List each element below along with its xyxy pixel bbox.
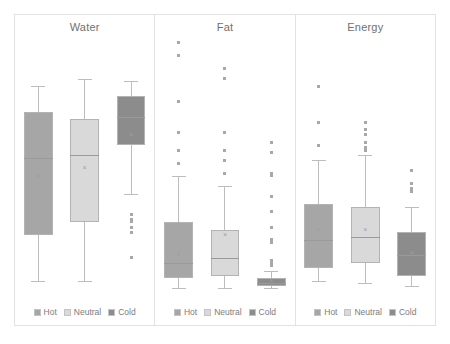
legend-item-hot[interactable]: Hot (314, 307, 337, 317)
whisker-cap-upper (264, 271, 278, 272)
panel-title: Fat (155, 21, 294, 33)
legend-item-hot[interactable]: Hot (174, 307, 197, 317)
legend-item-cold[interactable]: Cold (108, 307, 135, 317)
whisker-cap-upper (218, 186, 232, 187)
box-group-cold: × (117, 35, 146, 291)
box-group-cold: × (257, 35, 286, 291)
legend: HotNeutralCold (155, 307, 294, 317)
outlier-point (410, 169, 413, 172)
outlier-point (270, 226, 273, 229)
panel-energy: Energy×××HotNeutralCold (295, 15, 435, 325)
mean-marker: × (409, 250, 415, 256)
outlier-point (270, 195, 273, 198)
whisker-cap-lower (172, 288, 186, 289)
panel-water: Water×××HotNeutralCold (15, 15, 154, 325)
outlier-point (364, 133, 367, 136)
whisker-cap-upper (31, 86, 45, 87)
panel-title: Energy (296, 21, 435, 33)
outlier-point (270, 151, 273, 154)
legend-item-neutral[interactable]: Neutral (64, 307, 101, 317)
median-line (304, 240, 333, 241)
legend-label: Neutral (214, 307, 241, 317)
legend-item-neutral[interactable]: Neutral (344, 307, 381, 317)
legend-item-neutral[interactable]: Neutral (204, 307, 241, 317)
panel-title: Water (15, 21, 154, 33)
outlier-point (270, 210, 273, 213)
legend-item-cold[interactable]: Cold (389, 307, 416, 317)
whisker-cap-lower (264, 288, 278, 289)
outlier-point (270, 241, 273, 244)
mean-marker: × (268, 278, 274, 284)
median-line (117, 117, 146, 118)
mean-marker: × (316, 227, 322, 233)
whisker-cap-lower (124, 194, 138, 195)
legend-swatch-icon (34, 309, 41, 316)
outlier-point (177, 131, 180, 134)
plot-area: ××× (155, 35, 294, 291)
legend-item-cold[interactable]: Cold (249, 307, 276, 317)
box-rect (351, 207, 380, 263)
box-rect (164, 222, 193, 278)
box-rect (304, 204, 333, 268)
legend-swatch-icon (174, 309, 181, 316)
legend-label: Hot (44, 307, 57, 317)
outlier-point (410, 187, 413, 190)
box-group-neutral: × (70, 35, 99, 291)
outlier-point (317, 144, 320, 147)
outlier-point (364, 149, 367, 152)
whisker-cap-lower (78, 281, 92, 282)
outlier-point (270, 264, 273, 267)
mean-marker: × (128, 132, 134, 138)
outlier-point (317, 121, 320, 124)
outlier-point (130, 220, 133, 223)
plot-area: ××× (15, 35, 154, 291)
outlier-point (223, 67, 226, 70)
outlier-point (270, 238, 273, 241)
mean-marker: × (35, 173, 41, 179)
legend-swatch-icon (64, 309, 71, 316)
mean-marker: × (176, 252, 182, 258)
outlier-point (223, 77, 226, 80)
legend-label: Neutral (354, 307, 381, 317)
outlier-point (130, 231, 133, 234)
whisker-cap-upper (172, 176, 186, 177)
legend: HotNeutralCold (296, 307, 435, 317)
median-line (24, 158, 53, 159)
legend-item-hot[interactable]: Hot (34, 307, 57, 317)
outlier-point (364, 146, 367, 149)
outlier-point (177, 41, 180, 44)
outlier-point (223, 149, 226, 152)
legend-label: Cold (118, 307, 135, 317)
legend-label: Hot (184, 307, 197, 317)
outlier-point (270, 141, 273, 144)
whisker-cap-upper (312, 160, 326, 161)
outlier-point (410, 182, 413, 185)
median-line (164, 263, 193, 264)
legend-label: Cold (259, 307, 276, 317)
panel-fat: Fat×××HotNeutralCold (154, 15, 294, 325)
outlier-point (270, 261, 273, 264)
whisker-cap-lower (358, 283, 372, 284)
legend-swatch-icon (389, 309, 396, 316)
outlier-point (177, 54, 180, 57)
outlier-point (177, 162, 180, 165)
whisker-cap-upper (405, 207, 419, 208)
legend-label: Hot (324, 307, 337, 317)
mean-marker: × (222, 232, 228, 238)
outlier-point (130, 226, 133, 229)
median-line (211, 258, 240, 259)
box-group-hot: × (24, 35, 53, 291)
outlier-point (364, 128, 367, 131)
outlier-point (317, 85, 320, 88)
box-group-neutral: × (351, 35, 380, 291)
outlier-point (410, 190, 413, 193)
outlier-point (223, 131, 226, 134)
outlier-point (130, 256, 133, 259)
legend-swatch-icon (314, 309, 321, 316)
whisker-cap-lower (312, 281, 326, 282)
whisker-cap-lower (31, 281, 45, 282)
outlier-point (270, 174, 273, 177)
whisker-cap-upper (124, 81, 138, 82)
outlier-point (223, 172, 226, 175)
box-group-cold: × (397, 35, 426, 291)
